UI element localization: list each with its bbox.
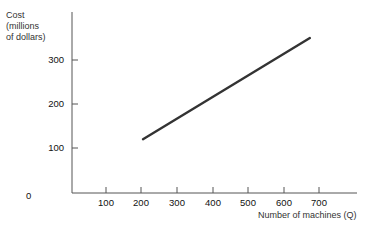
cost-line xyxy=(143,38,310,139)
chart-plot xyxy=(0,0,367,229)
